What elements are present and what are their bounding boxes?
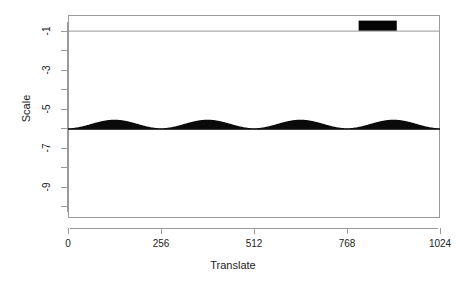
coefficient-layer — [68, 15, 440, 218]
y-axis-tick-label: -7 — [42, 135, 52, 161]
y-axis-tick-label: -5 — [42, 96, 52, 122]
y-axis-tick — [61, 50, 67, 51]
x-axis-tick — [161, 228, 162, 234]
y-axis-tick — [61, 206, 67, 207]
y-axis-title: Scale — [21, 79, 32, 139]
y-axis-tick — [61, 70, 67, 71]
y-axis-tick-label: -3 — [42, 57, 52, 83]
x-axis-tick — [440, 228, 441, 234]
x-axis-tick — [347, 228, 348, 234]
x-axis-tick-label: 0 — [65, 238, 71, 249]
x-axis-tick — [68, 228, 69, 234]
level-6-coefficient-band — [68, 120, 440, 130]
y-axis-tick-label: -1 — [42, 18, 52, 44]
y-axis-tick — [61, 128, 67, 129]
x-axis-tick-label: 512 — [246, 238, 263, 249]
x-axis-tick-label: 1024 — [429, 238, 451, 249]
y-axis-line — [67, 22, 68, 212]
wavelet-coefficient-chart: -9-7-5-3-1 Scale 02565127681024 Translat… — [0, 0, 466, 286]
x-axis-tick — [254, 228, 255, 234]
x-axis-tick-label: 256 — [153, 238, 170, 249]
x-axis-tick-label: 768 — [339, 238, 356, 249]
y-axis-tick — [61, 148, 67, 149]
y-axis-tick-label: -9 — [42, 174, 52, 200]
y-axis-tick — [61, 187, 67, 188]
y-axis-tick — [61, 167, 67, 168]
level-1-coefficient-burst — [359, 21, 397, 31]
x-axis-title: Translate — [0, 259, 466, 271]
y-axis-tick — [61, 109, 67, 110]
plot-area — [68, 15, 440, 218]
y-axis-tick — [61, 89, 67, 90]
y-axis-tick — [61, 31, 67, 32]
